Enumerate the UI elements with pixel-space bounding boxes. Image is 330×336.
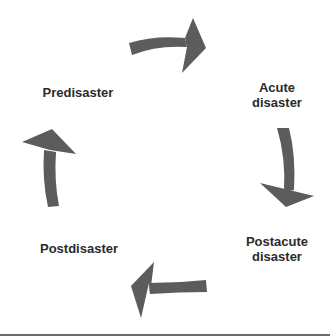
stage-label: Predisaster	[43, 85, 114, 100]
arrow-left-icon	[131, 262, 207, 318]
cycle-arrows	[0, 0, 330, 336]
stage-predisaster: Predisaster	[43, 85, 114, 100]
arrow-right-icon	[129, 18, 206, 73]
stage-label: Postdisaster	[40, 241, 118, 256]
stage-label-line-1: Postacute	[246, 234, 308, 249]
stage-postacute-disaster: Postacute disaster	[246, 234, 308, 264]
arrow-up-icon	[22, 129, 76, 207]
stage-label-line-2: disaster	[246, 249, 308, 264]
stage-acute-disaster: Acute disaster	[252, 80, 302, 110]
disaster-cycle-diagram: Predisaster Acute disaster Postacute dis…	[0, 0, 330, 336]
arrow-down-icon	[260, 128, 314, 207]
stage-label-line-1: Acute	[252, 80, 302, 95]
stage-postdisaster: Postdisaster	[40, 241, 118, 256]
stage-label-line-2: disaster	[252, 95, 302, 110]
